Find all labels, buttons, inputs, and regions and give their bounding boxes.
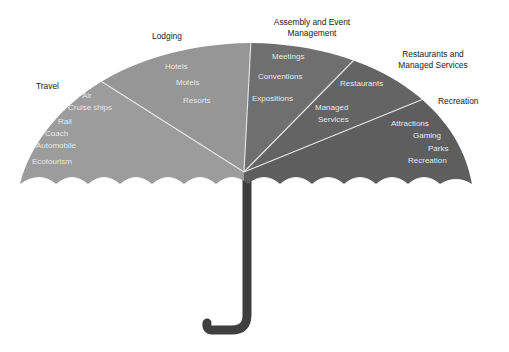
item-hotels: Hotels xyxy=(165,62,188,72)
category-label-restaurants-line2: Managed Services xyxy=(385,60,481,71)
item-services: Services xyxy=(318,115,349,125)
item-conventions: Conventions xyxy=(258,72,302,82)
item-cruise-ships: Cruise ships xyxy=(68,103,112,113)
category-label-assembly-line1: Assembly and Event xyxy=(262,17,362,28)
category-label-recreation: Recreation xyxy=(438,96,479,107)
category-label-restaurants: Restaurants and Managed Services xyxy=(385,49,481,71)
item-recreation: Recreation xyxy=(408,156,447,166)
item-managed: Managed xyxy=(315,103,348,113)
item-expositions: Expositions xyxy=(252,94,293,104)
category-label-travel: Travel xyxy=(36,81,59,92)
item-ecotourism: Ecotourism xyxy=(32,157,72,167)
item-resorts: Resorts xyxy=(183,96,211,106)
item-automobile: Automobile xyxy=(36,141,76,151)
category-label-assembly: Assembly and Event Management xyxy=(262,17,362,39)
umbrella-handle xyxy=(207,172,247,330)
item-air: Air xyxy=(82,91,92,101)
item-rail: Rail xyxy=(58,117,72,127)
item-motels: Motels xyxy=(176,78,200,88)
category-label-restaurants-line1: Restaurants and xyxy=(385,49,481,60)
item-coach: Coach xyxy=(45,129,68,139)
item-meetings: Meetings xyxy=(272,52,304,62)
item-restaurants: Restaurants xyxy=(340,79,383,89)
category-label-lodging: Lodging xyxy=(152,31,182,42)
item-gaming: Gaming xyxy=(413,131,441,141)
item-parks: Parks xyxy=(428,144,448,154)
category-label-assembly-line2: Management xyxy=(262,28,362,39)
item-attractions: Attractions xyxy=(391,119,429,129)
